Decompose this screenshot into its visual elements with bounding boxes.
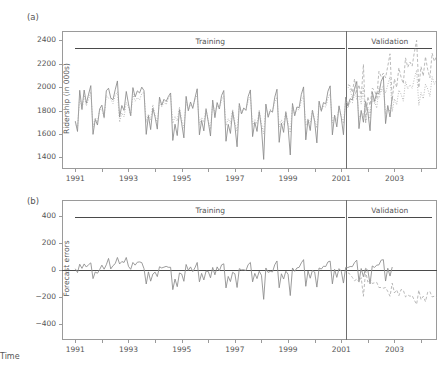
- y-tick-mark: [59, 87, 62, 88]
- x-tick-label: 2003: [374, 345, 414, 354]
- x-tick-mark: [315, 340, 316, 343]
- x-tick-mark: [421, 340, 422, 343]
- x-tick-label: 2001: [321, 174, 361, 183]
- y-tick-mark: [59, 111, 62, 112]
- panel-b-label: (b): [27, 196, 39, 206]
- x-tick-mark: [102, 340, 103, 343]
- x-tick-label: 1995: [162, 174, 202, 183]
- y-tick-mark: [59, 324, 62, 325]
- y-tick-label: −200: [20, 292, 56, 301]
- x-tick-mark: [288, 169, 289, 172]
- y-tick-mark: [59, 216, 62, 217]
- x-tick-label: 1999: [268, 345, 308, 354]
- x-tick-mark: [261, 169, 262, 172]
- series-training-errors: [75, 257, 392, 299]
- x-tick-mark: [128, 340, 129, 343]
- y-tick-mark: [59, 64, 62, 65]
- x-tick-mark: [155, 169, 156, 172]
- x-tick-label: 2003: [374, 174, 414, 183]
- x-tick-mark: [341, 340, 342, 343]
- y-tick-label: 1800: [20, 106, 56, 115]
- x-tick-mark: [75, 169, 76, 172]
- x-tick-label: 1995: [162, 345, 202, 354]
- panel-a-label: (a): [27, 12, 39, 22]
- y-tick-label: 0: [20, 265, 56, 274]
- x-tick-mark: [235, 340, 236, 343]
- y-tick-mark: [59, 243, 62, 244]
- y-tick-label: 2400: [20, 35, 56, 44]
- series-fitted-forecast: [75, 85, 392, 134]
- x-tick-mark: [288, 340, 289, 343]
- y-tick-mark: [59, 157, 62, 158]
- y-tick-label: 2000: [20, 82, 56, 91]
- y-tick-mark: [59, 40, 62, 41]
- series-validation-errors: [348, 271, 446, 304]
- y-tick-label: 400: [20, 211, 56, 220]
- x-tick-mark: [368, 340, 369, 343]
- y-tick-label: 2200: [20, 59, 56, 68]
- x-tick-mark: [394, 169, 395, 172]
- y-tick-label: 1400: [20, 152, 56, 161]
- x-tick-mark: [208, 169, 209, 172]
- x-tick-label: 1991: [55, 174, 95, 183]
- x-tick-mark: [182, 340, 183, 343]
- x-tick-mark: [315, 169, 316, 172]
- x-tick-mark: [155, 340, 156, 343]
- x-tick-label: 1999: [268, 174, 308, 183]
- x-tick-mark: [341, 169, 342, 172]
- x-tick-label: 1997: [215, 174, 255, 183]
- x-tick-label: 1993: [108, 174, 148, 183]
- x-tick-mark: [75, 340, 76, 343]
- x-tick-label: 1991: [55, 345, 95, 354]
- x-tick-mark: [368, 169, 369, 172]
- y-tick-label: 200: [20, 238, 56, 247]
- y-tick-label: 1600: [20, 129, 56, 138]
- x-tick-mark: [261, 340, 262, 343]
- x-tick-mark: [394, 340, 395, 343]
- x-tick-mark: [421, 169, 422, 172]
- y-tick-mark: [59, 297, 62, 298]
- x-tick-mark: [128, 169, 129, 172]
- x-tick-mark: [208, 340, 209, 343]
- x-tick-mark: [102, 169, 103, 172]
- x-tick-mark: [235, 169, 236, 172]
- x-tick-mark: [182, 169, 183, 172]
- x-tick-label: 1993: [108, 345, 148, 354]
- figure-amtrak-ridership-forecast: (a) Ridership (in 000s) 1400160018002000…: [0, 0, 446, 374]
- y-tick-mark: [59, 134, 62, 135]
- x-tick-label: 1997: [215, 345, 255, 354]
- y-tick-label: −400: [20, 319, 56, 328]
- x-tick-label: 2001: [321, 345, 361, 354]
